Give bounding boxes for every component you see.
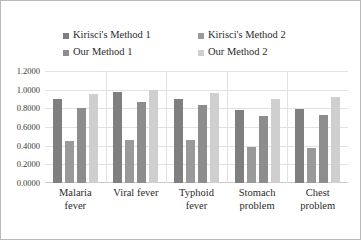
bar (235, 110, 244, 183)
bar (125, 140, 134, 183)
x-axis-category-label: Stomachproblem (227, 187, 288, 212)
bar (53, 99, 62, 183)
chart-legend: Kirisci's Method 1Kirisci's Method 2Our … (63, 27, 333, 61)
bar (307, 148, 316, 183)
bar (186, 140, 195, 183)
legend-swatch-icon (63, 50, 69, 56)
bar-group (166, 71, 227, 183)
bar (174, 99, 183, 183)
legend-item-label: Kirisci's Method 2 (208, 30, 286, 41)
legend-item-label: Our Method 1 (73, 47, 133, 58)
x-axis-category-label-line: Typhoid (166, 187, 227, 200)
bar (295, 109, 304, 183)
legend-item: Our Method 1 (63, 44, 198, 61)
bar (198, 105, 207, 183)
x-axis-category-label: Malariafever (45, 187, 106, 212)
bar (137, 102, 146, 183)
x-axis-category-label-line: fever (166, 200, 227, 213)
y-axis-tick-label: 0.6000 (17, 122, 40, 132)
bar (319, 115, 328, 183)
y-axis-tick-label: 0.2000 (17, 159, 40, 169)
legend-item-label: Kirisci's Method 1 (73, 30, 151, 41)
legend-swatch-icon (198, 33, 204, 39)
bar (210, 93, 219, 183)
x-axis-labels: MalariafeverViral feverTyphoidfeverStoma… (45, 187, 348, 227)
bar-chart-figure: Kirisci's Method 1Kirisci's Method 2Our … (0, 0, 361, 240)
y-axis-tick-label: 0.4000 (17, 141, 40, 151)
y-axis-tick-label: 1.2000 (17, 66, 40, 76)
x-axis-category-label: Viral fever (106, 187, 167, 200)
bar (89, 94, 98, 183)
legend-item: Our Method 2 (198, 44, 333, 61)
bar-group (45, 71, 106, 183)
bar-group (287, 71, 348, 183)
legend-item-label: Our Method 2 (208, 47, 268, 58)
x-axis-category-label-line: problem (227, 200, 288, 213)
x-axis-category-label-line: Viral fever (106, 187, 167, 200)
legend-swatch-icon (198, 50, 204, 56)
plot-area: 0.00000.20000.40000.60000.80001.00001.20… (45, 71, 348, 183)
bar (331, 97, 340, 183)
bar (65, 141, 74, 183)
y-axis-tick-label: 0.8000 (17, 103, 40, 113)
y-axis-tick-label: 1.0000 (17, 85, 40, 95)
x-axis-category-label-line: Malaria (45, 187, 106, 200)
x-axis-category-label-line: Chest (287, 187, 348, 200)
y-axis-tick-label: 0.0000 (17, 178, 40, 188)
bar-group (227, 71, 288, 183)
x-axis-category-label-line: fever (45, 200, 106, 213)
bar (77, 108, 86, 183)
x-axis-category-label: Chestproblem (287, 187, 348, 212)
bar (113, 92, 122, 183)
bar (149, 90, 158, 183)
bar (271, 99, 280, 183)
bar (259, 116, 268, 183)
x-axis-category-label: Typhoidfever (166, 187, 227, 212)
x-axis-category-label-line: problem (287, 200, 348, 213)
x-axis-category-label-line: Stomach (227, 187, 288, 200)
bar (247, 147, 256, 183)
legend-item: Kirisci's Method 2 (198, 27, 333, 44)
legend-item: Kirisci's Method 1 (63, 27, 198, 44)
legend-swatch-icon (63, 33, 69, 39)
bar-group (106, 71, 167, 183)
